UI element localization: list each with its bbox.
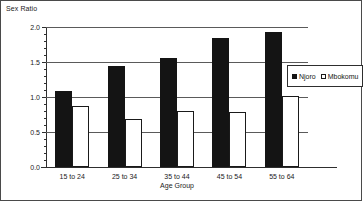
plot-area: 0.00.51.01.52.0 15 to 2425 to 3435 to 44… — [46, 27, 308, 167]
legend-swatch-icon — [321, 74, 326, 79]
y-tick-label: 0.0 — [30, 164, 40, 171]
y-tick-major — [42, 167, 46, 168]
legend-label: Njoro — [299, 73, 316, 80]
bar-njoro-35-to-44 — [160, 58, 177, 167]
bar-mbokomu-25-to-34 — [125, 119, 142, 167]
y-tick-label: 1.0 — [30, 94, 40, 101]
y-tick-label: 1.5 — [30, 59, 40, 66]
chart-legend: NjoroMbokomu — [287, 65, 363, 87]
x-axis-title: Age Group — [160, 182, 194, 189]
bar-mbokomu-45-to-54 — [229, 112, 246, 167]
y-axis-title: Sex Ratio — [6, 5, 37, 12]
x-axis-line — [41, 167, 337, 168]
legend-label: Mbokomu — [328, 73, 359, 80]
legend-entry-mbokomu: Mbokomu — [321, 73, 359, 80]
bars-layer — [46, 27, 308, 167]
x-tick-label: 15 to 24 — [60, 173, 85, 180]
y-tick-label: 0.5 — [30, 129, 40, 136]
bar-mbokomu-55-to-64 — [282, 96, 299, 167]
x-tick-label: 45 to 54 — [217, 173, 242, 180]
legend-swatch-icon — [292, 74, 297, 79]
bar-njoro-25-to-34 — [108, 66, 125, 167]
bar-njoro-55-to-64 — [265, 32, 282, 167]
bar-mbokomu-15-to-24 — [72, 106, 89, 167]
bar-mbokomu-35-to-44 — [177, 111, 194, 167]
x-tick-label: 35 to 44 — [164, 173, 189, 180]
bar-njoro-45-to-54 — [212, 38, 229, 168]
y-tick-label: 2.0 — [30, 24, 40, 31]
x-tick-label: 25 to 34 — [112, 173, 137, 180]
x-tick-label: 55 to 64 — [269, 173, 294, 180]
bar-njoro-15-to-24 — [55, 91, 72, 167]
legend-entry-njoro: Njoro — [292, 73, 316, 80]
